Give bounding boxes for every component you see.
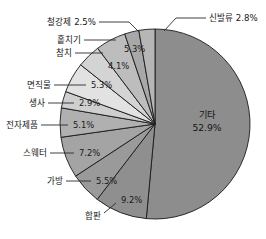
value-chamchi: 4.1% — [108, 61, 129, 71]
value-hotchigi: 5.3% — [124, 44, 145, 54]
label-hotchigi: 홑치기 — [57, 34, 81, 45]
value-myeonjikmul: 5.3% — [91, 80, 112, 90]
label-saengsa: 생사 — [29, 98, 45, 108]
pie-chart-svg: 신발류 2.8% 철강제 2.5% 홑치기 참치 면직물 생사 전자제품 스웨터… — [0, 0, 266, 239]
value-jeonjajepum: 5.1% — [73, 120, 94, 130]
label-hapan: 합판 — [85, 211, 101, 221]
leader-line-sinbalryu — [164, 18, 206, 31]
label-seuweteo: 스웨터 — [23, 147, 47, 158]
label-gita: 기타 — [199, 109, 216, 120]
label-cheolgangje: 철강제 2.5% — [47, 17, 96, 27]
value-gabang: 5.5% — [96, 176, 117, 186]
label-sinbalryu: 신발류 2.8% — [209, 13, 258, 23]
label-gabang: 가방 — [47, 176, 63, 186]
leader-line-cheolgangje — [99, 22, 139, 32]
label-chamchi: 참치 — [56, 48, 72, 58]
label-jeonjajepum: 전자제품 — [6, 120, 38, 130]
pie-chart: 신발류 2.8% 철강제 2.5% 홑치기 참치 면직물 생사 전자제품 스웨터… — [0, 0, 266, 239]
value-seuweteo: 7.2% — [79, 148, 100, 158]
value-saengsa: 2.9% — [79, 98, 100, 108]
value-hapan: 9.2% — [121, 195, 142, 205]
value-gita: 52.9% — [192, 122, 221, 133]
label-myeonjikmul: 면직물 — [27, 80, 51, 90]
